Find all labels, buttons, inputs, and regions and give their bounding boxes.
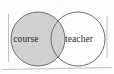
venn-diagram-canvas: course teacher bbox=[0, 0, 114, 74]
venn-diagram-figure: course teacher bbox=[0, 0, 114, 74]
venn-label-right: teacher bbox=[65, 34, 94, 44]
venn-label-left: course bbox=[13, 34, 38, 44]
frame-bottom-line bbox=[2, 68, 112, 70]
